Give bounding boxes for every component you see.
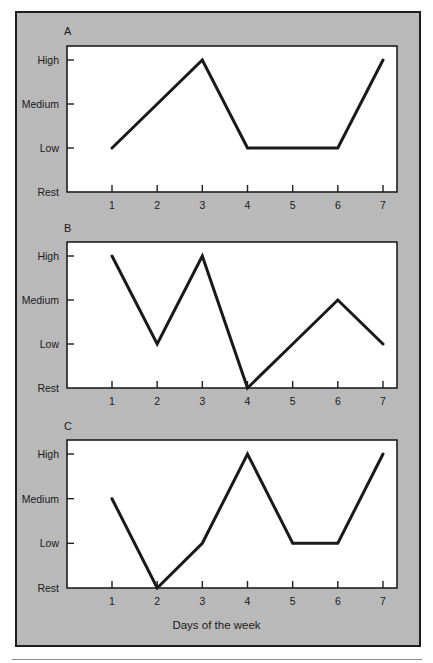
- y-tick-label: Medium: [22, 98, 60, 110]
- panel-label: B: [64, 222, 71, 234]
- y-tick-label: Low: [40, 338, 60, 350]
- x-tick-label: 3: [199, 595, 205, 607]
- panel-label: A: [64, 25, 72, 37]
- x-tick-label: 1: [109, 395, 115, 407]
- x-tick-label: 4: [245, 199, 251, 211]
- activity-level-charts: ARestLowMediumHigh1234567BRestLowMediumH…: [0, 0, 433, 663]
- y-tick-label: Rest: [37, 382, 59, 394]
- x-tick-label: 6: [335, 395, 341, 407]
- x-tick-label: 5: [290, 199, 296, 211]
- x-tick-label: 1: [109, 595, 115, 607]
- y-tick-label: High: [37, 54, 59, 66]
- x-tick-label: 2: [154, 395, 160, 407]
- x-tick-label: 2: [154, 595, 160, 607]
- x-tick-label: 7: [380, 395, 386, 407]
- x-tick-label: 4: [245, 595, 251, 607]
- x-axis-title: Days of the week: [0, 619, 433, 631]
- x-tick-label: 1: [109, 199, 115, 211]
- panel-a: ARestLowMediumHigh1234567: [22, 25, 397, 211]
- x-tick-label: 5: [290, 395, 296, 407]
- x-tick-label: 6: [335, 595, 341, 607]
- x-tick-label: 3: [199, 395, 205, 407]
- y-tick-label: Low: [40, 537, 60, 549]
- x-tick-label: 6: [335, 199, 341, 211]
- y-tick-label: Low: [40, 142, 60, 154]
- panel-b: BRestLowMediumHigh1234567: [22, 222, 397, 407]
- x-tick-label: 7: [380, 595, 386, 607]
- x-tick-label: 2: [154, 199, 160, 211]
- y-tick-label: Medium: [22, 493, 60, 505]
- y-tick-label: High: [37, 448, 59, 460]
- x-tick-label: 5: [290, 595, 296, 607]
- panel-label: C: [64, 420, 72, 432]
- panel-c: CRestLowMediumHigh1234567: [22, 420, 397, 607]
- plot-area: [67, 440, 397, 588]
- x-tick-label: 7: [380, 199, 386, 211]
- y-tick-label: Rest: [37, 582, 59, 594]
- x-tick-label: 3: [199, 199, 205, 211]
- x-tick-label: 4: [245, 395, 251, 407]
- y-tick-label: Rest: [37, 186, 59, 198]
- y-tick-label: High: [37, 250, 59, 262]
- y-tick-label: Medium: [22, 294, 60, 306]
